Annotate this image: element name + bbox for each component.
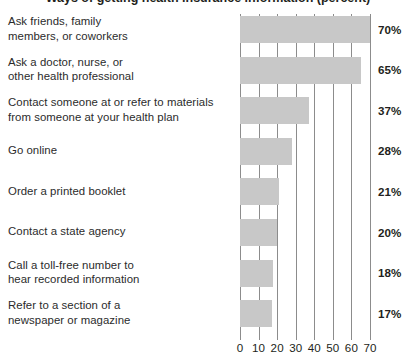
bar — [240, 178, 279, 205]
category-label: Go online — [8, 143, 236, 157]
value-label: 37% — [378, 104, 416, 117]
bar — [240, 97, 309, 124]
category-label-line: members, or coworkers — [8, 29, 236, 43]
category-label: Refer to a section of anewspaper or maga… — [8, 298, 236, 327]
chart-page: Ways of getting health insurance informa… — [0, 0, 416, 361]
category-label: Order a printed booklet — [8, 184, 236, 198]
bar — [240, 260, 273, 287]
bar — [240, 219, 277, 246]
bar — [240, 138, 292, 165]
bar — [240, 16, 370, 43]
x-tick-70: 70 — [359, 341, 381, 354]
category-label-line: Refer to a section of a — [8, 298, 236, 312]
value-label: 20% — [378, 226, 416, 239]
category-label-line: other health professional — [8, 69, 236, 83]
chart-title-clipped: Ways of getting health insurance informa… — [0, 0, 416, 5]
category-label-line: Contact someone at or refer to materials — [8, 95, 236, 109]
category-label: Call a toll-free number tohear recorded … — [8, 258, 236, 287]
value-label: 28% — [378, 144, 416, 157]
bar — [240, 57, 361, 84]
x-axis-tick-labels: 010203040506070 — [240, 341, 380, 359]
category-label-line: from someone at your health plan — [8, 110, 236, 124]
category-label: Ask friends, familymembers, or coworkers — [8, 14, 236, 43]
category-label-line: newspaper or magazine — [8, 313, 236, 327]
category-label: Contact someone at or refer to materials… — [8, 95, 236, 124]
value-label-column: 70%65%37%28%21%20%18%17% — [378, 14, 416, 340]
category-label-line: Go online — [8, 143, 236, 157]
value-label: 70% — [378, 23, 416, 36]
value-label: 18% — [378, 266, 416, 279]
category-label: Contact a state agency — [8, 224, 236, 238]
category-label-line: hear recorded information — [8, 272, 236, 286]
category-label: Ask a doctor, nurse, orother health prof… — [8, 55, 236, 84]
category-label-column: Ask friends, familymembers, or coworkers… — [0, 14, 232, 340]
category-label-line: Order a printed booklet — [8, 184, 236, 198]
value-label: 21% — [378, 185, 416, 198]
page-title: Ways of getting health insurance informa… — [0, 0, 416, 5]
bar — [240, 300, 272, 327]
value-label: 17% — [378, 307, 416, 320]
value-label: 65% — [378, 63, 416, 76]
category-label-line: Ask friends, family — [8, 14, 236, 28]
plot-area — [240, 14, 370, 340]
category-label-line: Ask a doctor, nurse, or — [8, 55, 236, 69]
category-label-line: Call a toll-free number to — [8, 258, 236, 272]
gridline-70 — [370, 14, 371, 340]
category-label-line: Contact a state agency — [8, 224, 236, 238]
